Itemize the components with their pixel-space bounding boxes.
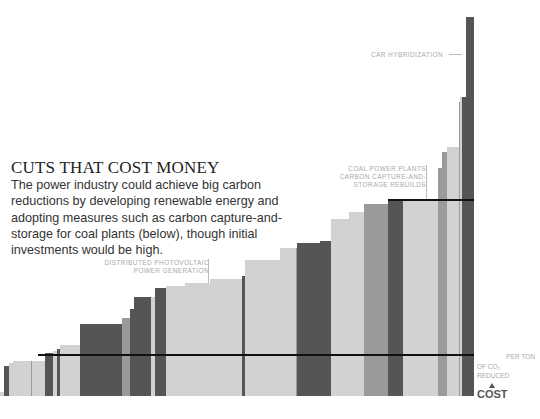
- axis-note-per-ton: PER TON: [490, 353, 535, 361]
- cost-bar-24: [297, 243, 320, 396]
- cost-bar-29: [388, 201, 403, 396]
- cost-bar-10: [60, 345, 80, 396]
- label-pv-2: POWER GENERATION: [134, 267, 209, 275]
- label-pv-1: DISTRIBUTED PHOTOVOLTAIC: [104, 259, 209, 267]
- cost-bar-18: [185, 283, 210, 396]
- cost-bar-11: [80, 324, 122, 396]
- leader-coal-ccs: [426, 165, 427, 199]
- cost-bar-6: [32, 361, 45, 396]
- leader-car-hybridization: [449, 54, 462, 55]
- axis-note-of-co2: OF CO₂: [477, 363, 500, 371]
- baseline-cost-line: [38, 354, 474, 356]
- axis-note-reduced: REDUCED: [477, 372, 509, 380]
- cost-bar-27: [349, 212, 364, 396]
- cost-bar-26: [331, 219, 349, 396]
- chart-description: The power industry could achieve big car…: [11, 177, 311, 258]
- label-coal-ccs-1: COAL POWER PLANTS: [348, 165, 426, 173]
- cost-bar-17: [166, 286, 185, 396]
- chart-title: CUTS THAT COST MONEY: [11, 158, 220, 178]
- label-coal-ccs-3: STORAGE REBUILDS: [354, 181, 426, 189]
- cost-bar-28: [364, 204, 388, 396]
- cost-bar-30: [403, 201, 438, 396]
- cost-bar-12: [122, 318, 130, 396]
- leader-pv: [208, 259, 209, 283]
- coal-ccs-cost-line: [388, 199, 474, 201]
- cost-bar-4: [13, 361, 31, 396]
- axis-label-cost: COST: [477, 388, 508, 400]
- cost-bar-25: [320, 241, 331, 396]
- cost-bar-33: [447, 147, 459, 396]
- cost-bar-22: [280, 248, 296, 396]
- label-coal-ccs-2: CARBON CAPTURE-AND-: [340, 173, 426, 181]
- cost-bar-14: [134, 297, 151, 396]
- cost-bar-21: [245, 260, 280, 396]
- chart-stage: CUTS THAT COST MONEY The power industry …: [0, 0, 540, 419]
- cost-bar-19: [210, 279, 242, 396]
- cost-bar-16: [155, 288, 166, 396]
- cost-bar-37: [466, 17, 474, 396]
- label-car-hybridization: CAR HYBRIDIZATION: [371, 51, 443, 59]
- cost-bar-7: [45, 353, 53, 396]
